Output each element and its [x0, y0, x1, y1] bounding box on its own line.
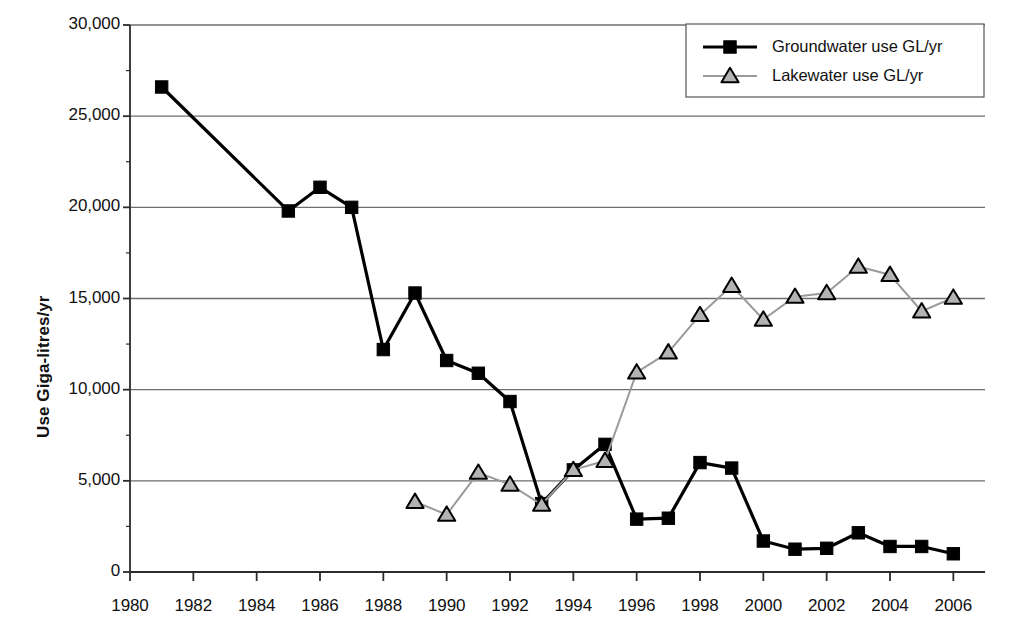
- legend-item-label: Groundwater use GL/yr: [772, 37, 942, 56]
- legend-box: [686, 24, 984, 97]
- legend-item-label: Lakewater use GL/yr: [772, 66, 923, 85]
- legend-graphics: [0, 0, 1013, 631]
- water-use-line-chart: Use Giga-litres/yr 05,00010,00015,00020,…: [0, 0, 1013, 631]
- square-marker-icon: [724, 41, 736, 53]
